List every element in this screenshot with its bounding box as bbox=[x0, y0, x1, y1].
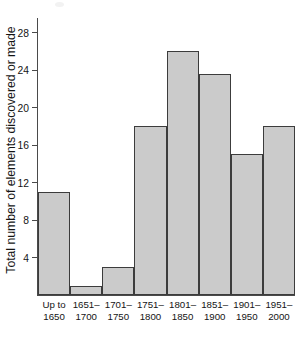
x-tick-label-line: 1901– bbox=[231, 299, 263, 311]
x-tick-label-line: Up to bbox=[38, 299, 70, 311]
scan-artifact-speck bbox=[55, 2, 64, 7]
bar bbox=[102, 267, 134, 295]
x-tick-label: 1751–1800 bbox=[134, 299, 166, 322]
bar bbox=[70, 286, 102, 295]
x-tick-label-line: 1651– bbox=[70, 299, 102, 311]
y-tick-label: 20 bbox=[18, 102, 29, 113]
y-tick-mark: 12 bbox=[32, 182, 37, 183]
x-tick-label-line: 1700 bbox=[70, 311, 102, 323]
x-tick-label: 1801–1850 bbox=[167, 299, 199, 322]
x-tick-label-line: 1851– bbox=[199, 299, 231, 311]
y-axis-title: Total number of elements discovered or m… bbox=[4, 26, 18, 273]
y-tick-mark: 20 bbox=[32, 107, 37, 108]
y-tick-mark: 28 bbox=[32, 32, 37, 33]
x-axis-line bbox=[37, 295, 295, 296]
x-axis-tick-labels: Up to16501651–17001701–17501751–18001801… bbox=[38, 299, 295, 338]
x-tick-label: 1901–1950 bbox=[231, 299, 263, 322]
y-tick-label: 16 bbox=[18, 140, 29, 151]
y-tick-mark: 8 bbox=[32, 220, 37, 221]
x-tick-label-line: 1801– bbox=[167, 299, 199, 311]
x-tick-label: 1651–1700 bbox=[70, 299, 102, 322]
y-tick-label: 8 bbox=[23, 215, 29, 226]
y-tick-mark: 16 bbox=[32, 145, 37, 146]
x-tick-label: 1701–1750 bbox=[102, 299, 134, 322]
y-tick-label: 24 bbox=[18, 65, 29, 76]
bar bbox=[167, 51, 199, 295]
x-tick-label-line: 1950 bbox=[231, 311, 263, 323]
x-tick-label-line: 1850 bbox=[167, 311, 199, 323]
x-tick-label: Up to1650 bbox=[38, 299, 70, 322]
x-tick-label-line: 2000 bbox=[263, 311, 295, 323]
x-tick-label-line: 1750 bbox=[102, 311, 134, 323]
bar bbox=[199, 74, 231, 295]
bar bbox=[263, 126, 295, 295]
y-tick-label: 4 bbox=[23, 252, 29, 263]
plot-area: 481216202428 bbox=[37, 18, 295, 295]
x-tick-label-line: 1701– bbox=[102, 299, 134, 311]
bar bbox=[231, 154, 263, 295]
y-tick-label: 12 bbox=[18, 177, 29, 188]
bar-chart: Total number of elements discovered or m… bbox=[0, 0, 299, 338]
y-tick-label: 28 bbox=[18, 27, 29, 38]
y-tick-mark: 4 bbox=[32, 257, 37, 258]
x-tick-label: 1951–2000 bbox=[263, 299, 295, 322]
x-tick-label-line: 1900 bbox=[199, 311, 231, 323]
bar bbox=[134, 126, 166, 295]
x-tick-label: 1851–1900 bbox=[199, 299, 231, 322]
bar bbox=[38, 192, 70, 295]
bar-series bbox=[38, 18, 295, 295]
x-tick-label-line: 1951– bbox=[263, 299, 295, 311]
x-tick-label-line: 1800 bbox=[134, 311, 166, 323]
x-tick-label-line: 1650 bbox=[38, 311, 70, 323]
x-tick-label-line: 1751– bbox=[134, 299, 166, 311]
y-tick-mark: 24 bbox=[32, 70, 37, 71]
